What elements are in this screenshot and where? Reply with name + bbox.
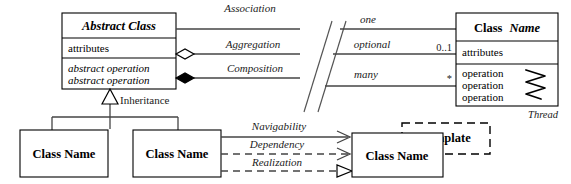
abstract-class-operation-1: abstract operation (68, 62, 150, 74)
subclass-left-name: Class Name (33, 147, 96, 161)
multiplicity-many-value: * (447, 73, 452, 84)
right-class-operation-2: operation (462, 79, 504, 91)
composition-filled-diamond (176, 73, 194, 83)
aggregation-hollow-diamond (176, 49, 194, 59)
multiplicity-optional[interactable]: optional 0..1 (333, 38, 456, 54)
aggregation-label: Aggregation (225, 38, 281, 50)
multiplicity-optional-value: 0..1 (436, 42, 452, 53)
abstract-class-attributes: attributes (68, 42, 109, 54)
thread-label: Thread (528, 109, 559, 120)
dependency-label: Dependency (249, 138, 304, 150)
composition-relation[interactable]: Composition (176, 62, 300, 83)
multiplicity-many[interactable]: many * (325, 68, 456, 86)
inheritance-relation[interactable]: Inheritance (52, 89, 178, 130)
break-slash-2 (318, 21, 346, 112)
abstract-class-box[interactable]: Abstract Class attributes abstract opera… (62, 13, 176, 89)
realization-label: Realization (251, 156, 303, 168)
uml-canvas: Abstract Class attributes abstract opera… (0, 0, 571, 184)
right-class-name-part-1: Class (474, 21, 503, 35)
inheritance-label: Inheritance (120, 94, 170, 106)
association-relation[interactable]: Association (176, 2, 300, 29)
navigability-label: Navigability (251, 120, 307, 132)
right-class-box[interactable]: Class Name attributes operation operatio… (456, 13, 558, 106)
composition-label: Composition (227, 62, 284, 74)
multiplicity-many-label: many (354, 68, 378, 80)
realization-hollow-triangle (337, 165, 352, 177)
subclass-right-box[interactable]: Class Name (133, 130, 221, 177)
right-class-operation-1: operation (462, 67, 504, 79)
aggregation-relation[interactable]: Aggregation (176, 38, 300, 59)
realization-relation[interactable]: Realization (221, 156, 352, 177)
association-label: Association (223, 2, 276, 14)
multiplicity-one[interactable]: one (340, 13, 456, 29)
uml-notation-diagram: Abstract Class attributes abstract opera… (0, 0, 571, 184)
subclass-right-name: Class Name (146, 147, 209, 161)
template-class-name: Class Name (366, 149, 429, 163)
right-class-operation-3: operation (462, 91, 504, 103)
right-class-name-part-2: Name (509, 21, 541, 35)
multiplicity-one-label: one (360, 13, 376, 25)
subclass-left-box[interactable]: Class Name (20, 130, 108, 177)
line-break-marker (304, 21, 346, 112)
abstract-class-name: Abstract Class (81, 19, 156, 33)
abstract-class-operation-2: abstract operation (68, 74, 150, 86)
template-class-box[interactable]: Class Name (352, 133, 443, 177)
right-class-attributes: attributes (462, 46, 503, 58)
inheritance-hollow-triangle (102, 89, 118, 104)
break-slash-1 (304, 21, 332, 112)
multiplicity-optional-label: optional (354, 38, 391, 50)
